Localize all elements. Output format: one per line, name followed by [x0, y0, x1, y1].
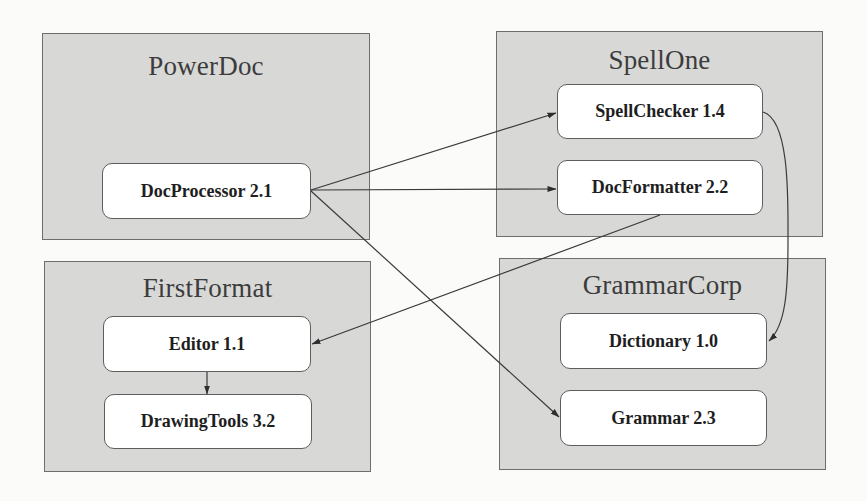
node-docprocessor[interactable]: DocProcessor 2.1 — [102, 163, 311, 219]
group-title-grammarcorp: GrammarCorp — [500, 270, 825, 301]
node-drawingtools[interactable]: DrawingTools 3.2 — [104, 394, 312, 449]
node-dictionary[interactable]: Dictionary 1.0 — [560, 313, 767, 369]
group-title-spellone: SpellOne — [497, 45, 822, 76]
group-title-firstformat: FirstFormat — [45, 273, 370, 304]
node-spellchecker[interactable]: SpellChecker 1.4 — [557, 84, 763, 139]
group-title-powerdoc: PowerDoc — [43, 51, 369, 82]
node-editor[interactable]: Editor 1.1 — [103, 316, 311, 372]
node-docformatter[interactable]: DocFormatter 2.2 — [557, 160, 763, 215]
node-grammar[interactable]: Grammar 2.3 — [560, 390, 767, 446]
